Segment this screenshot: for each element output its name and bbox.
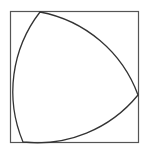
reuleaux-triangle <box>13 12 138 143</box>
reuleaux-diagram <box>0 0 149 150</box>
bounding-square <box>11 12 139 143</box>
